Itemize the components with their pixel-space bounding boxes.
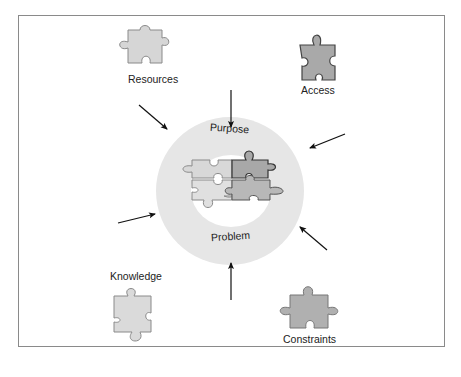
diagram-graphics <box>0 0 461 377</box>
arrow-top-right <box>310 134 345 148</box>
diagram-canvas: Purpose Problem Resources Access Knowled… <box>0 0 461 377</box>
access-puzzle-icon <box>300 35 335 80</box>
resources-label: Resources <box>128 73 178 85</box>
constraints-label: Constraints <box>283 333 336 345</box>
resources-puzzle-icon <box>120 26 169 64</box>
knowledge-puzzle-icon <box>114 289 151 342</box>
arrow-top-left <box>139 105 167 129</box>
access-label: Access <box>301 84 335 96</box>
arrow-left <box>118 214 155 223</box>
constraints-puzzle-icon <box>280 287 338 328</box>
arrow-bottom-right <box>300 227 327 250</box>
knowledge-label: Knowledge <box>110 270 162 282</box>
